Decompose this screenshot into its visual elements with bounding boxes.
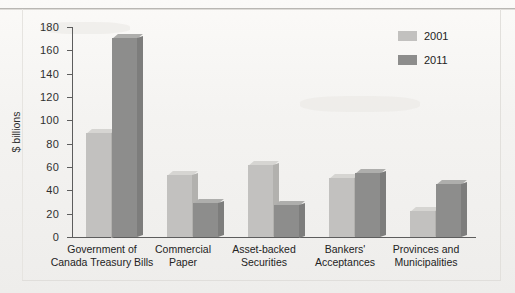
bar-2001-1[interactable]: [167, 175, 192, 237]
y-tick-label-160: 160: [40, 44, 59, 56]
y-tick-label-180: 180: [40, 21, 59, 33]
legend-label-2011: 2011: [424, 54, 448, 66]
legend-label-2001: 2001: [424, 30, 448, 42]
y-tick-20: 20: [67, 214, 72, 215]
bar-2011-1[interactable]: [193, 203, 218, 237]
page-edge-bottom: [22, 280, 501, 281]
y-tick-label-20: 20: [46, 208, 59, 220]
bar-2011-4[interactable]: [436, 184, 461, 237]
y-tick-label-60: 60: [46, 161, 59, 173]
y-axis-title: $ billions: [10, 112, 22, 153]
y-tick-label-120: 120: [40, 91, 59, 103]
bar-2001-0[interactable]: [86, 133, 111, 238]
x-category-line-4-0: Provinces and: [372, 243, 480, 256]
page-edge-top-shadow: [0, 9, 515, 10]
legend-swatch-2011-icon: [398, 55, 417, 65]
page-edge-left: [22, 9, 23, 281]
y-tick-label-80: 80: [46, 138, 59, 150]
bar-2011-2[interactable]: [274, 205, 299, 238]
y-tick-160: 160: [67, 50, 72, 51]
y-tick-label-140: 140: [40, 68, 59, 80]
x-axis-line: [72, 237, 476, 238]
bar-2001-4[interactable]: [410, 211, 435, 237]
bar-2001-3[interactable]: [329, 178, 354, 237]
bar-2011-3[interactable]: [355, 173, 380, 237]
bar-2001-2[interactable]: [248, 165, 273, 237]
y-tick-label-100: 100: [40, 114, 59, 126]
y-tick-80: 80: [67, 144, 72, 145]
y-tick-60: 60: [67, 167, 72, 168]
y-tick-120: 120: [67, 97, 72, 98]
legend-item-2001[interactable]: 2001: [398, 28, 448, 43]
legend-swatch-2001-icon: [398, 31, 417, 41]
y-tick-label-40: 40: [46, 184, 59, 196]
legend-item-2011[interactable]: 2011: [398, 52, 448, 67]
x-category-label-4: Provinces and Municipalities: [372, 243, 480, 268]
y-tick-0: 0: [67, 237, 72, 238]
y-tick-180: 180: [67, 27, 72, 28]
chart-figure: $ billions 180 160 140 120 100 80 60 40 …: [0, 0, 515, 293]
page-edge-right: [500, 9, 501, 281]
y-tick-100: 100: [67, 120, 72, 121]
y-tick-label-0: 0: [53, 231, 59, 243]
y-axis-line: [72, 27, 73, 238]
y-tick-40: 40: [67, 190, 72, 191]
x-category-line-4-1: Municipalities: [372, 256, 480, 269]
chart-legend: 2001 2011: [398, 28, 448, 76]
y-tick-140: 140: [67, 74, 72, 75]
bar-2011-0[interactable]: [112, 38, 137, 237]
